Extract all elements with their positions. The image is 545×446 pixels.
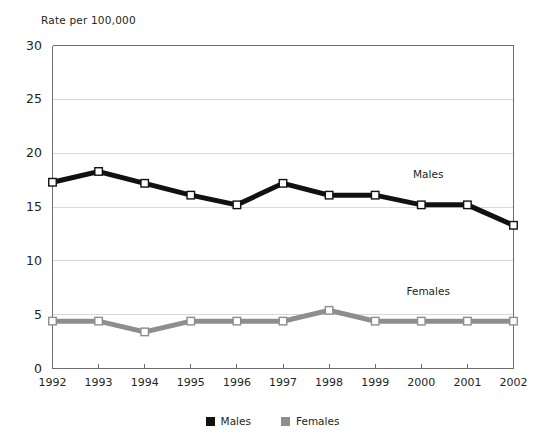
data-point-marker [95,168,103,176]
data-point-marker [95,317,103,325]
data-point-marker [371,317,379,325]
series-label-males: Males [413,168,443,180]
data-point-marker [418,317,426,325]
data-point-marker [325,191,333,199]
y-tick-label: 25 [8,91,42,106]
series-label-females: Females [406,285,449,297]
y-tick-label: 5 [8,307,42,322]
x-tick-label: 1999 [352,376,398,389]
data-point-marker [279,180,287,188]
data-point-marker [141,180,149,188]
chart-legend: MalesFemales [0,415,545,427]
series-lines-group [53,171,514,331]
legend-label: Females [296,415,339,427]
y-tick-label: 30 [8,38,42,53]
data-point-marker [187,317,195,325]
data-point-marker [464,317,472,325]
y-axis-title: Rate per 100,000 [41,14,136,26]
data-point-marker [233,317,241,325]
data-point-marker [49,317,57,325]
data-point-marker [233,201,241,209]
legend-swatch-icon [206,417,215,426]
x-tick-label: 2002 [491,376,537,389]
line-chart: Rate per 100,000 051015202530 1992199319… [0,0,545,446]
data-point-marker [325,307,333,315]
y-tick-label: 20 [8,145,42,160]
x-tick-label: 1994 [122,376,168,389]
data-point-marker [510,317,518,325]
data-point-marker [464,201,472,209]
x-tick-label: 1992 [30,376,76,389]
data-point-marker [418,201,426,209]
x-tick-label: 1998 [306,376,352,389]
x-tick-label: 2001 [444,376,490,389]
data-point-marker [279,317,287,325]
legend-item-females[interactable]: Females [281,415,339,427]
data-point-marker [510,222,518,230]
x-tick-label: 1993 [76,376,122,389]
x-tick-label: 1997 [260,376,306,389]
series-markers-group [49,168,518,336]
legend-label: Males [221,415,251,427]
legend-swatch-icon [281,417,290,426]
y-tick-label: 0 [8,361,42,376]
x-tick-label: 1996 [214,376,260,389]
data-point-marker [49,178,57,186]
data-point-marker [187,191,195,199]
x-tick-label: 2000 [398,376,444,389]
y-tick-label: 10 [8,253,42,268]
y-tick-label: 15 [8,199,42,214]
data-point-marker [141,328,149,336]
x-tick-label: 1995 [168,376,214,389]
legend-item-males[interactable]: Males [206,415,251,427]
data-point-marker [371,191,379,199]
